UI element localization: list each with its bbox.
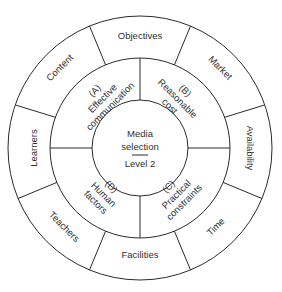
center-label-line1: Media	[127, 128, 154, 139]
segment-availability: Availability	[245, 126, 256, 171]
quadrant-c: (C) Practical constraints	[148, 166, 204, 222]
quadrant-b-line1: Reasonable	[156, 76, 200, 120]
media-selection-diagram: Media selection Level 2 (A) Effective co…	[0, 0, 282, 292]
quadrant-a: (A) Effective communication	[68, 64, 137, 133]
segment-market: Market	[206, 53, 235, 82]
segment-time: Time	[204, 215, 226, 237]
quadrant-d: (D) Human factors	[81, 172, 126, 217]
segment-teachers: Teachers	[47, 209, 82, 244]
segment-facilities: Facilities	[122, 249, 159, 260]
segment-objectives: Objectives	[118, 30, 163, 41]
center-label-line2: selection	[121, 141, 159, 152]
segment-learners: Learners	[28, 129, 39, 167]
segment-content: Content	[44, 52, 76, 84]
center-label-line3: Level 2	[125, 158, 156, 169]
